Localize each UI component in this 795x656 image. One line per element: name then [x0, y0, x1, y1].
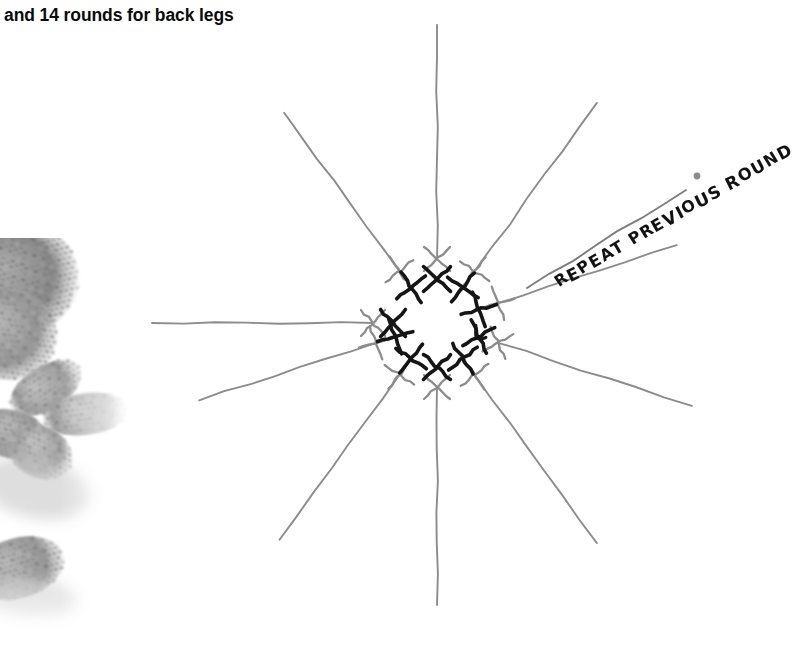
annotation-pointer-dot — [694, 173, 701, 180]
spoke-line-10 — [284, 113, 399, 272]
spoke-line-5 — [475, 375, 597, 543]
inner-stitch-1 — [424, 267, 451, 292]
spoke-lines-group — [152, 25, 692, 605]
outer-stitch-symbols-group — [359, 247, 515, 399]
spoke-line-1 — [436, 25, 438, 259]
spoke-line-6 — [436, 387, 438, 605]
spoke-line-8 — [199, 343, 376, 401]
spoke-line-4 — [498, 343, 692, 406]
spoke-line-7 — [280, 375, 400, 540]
spoke-line-2 — [475, 103, 597, 271]
outer-stitch-7 — [385, 361, 414, 389]
annotation-pointer-group — [527, 173, 700, 288]
spoke-line-9 — [152, 322, 373, 324]
outer-stitch-3 — [481, 287, 515, 320]
inner-stitch-5 — [449, 343, 478, 374]
outer-stitch-2 — [460, 257, 489, 285]
inner-stitch-symbols-group — [378, 267, 497, 380]
inner-stitch-6 — [424, 355, 451, 380]
